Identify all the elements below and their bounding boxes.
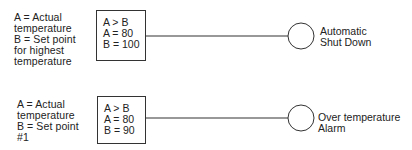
legend-2: A = Actual temperature B = Set point #1 bbox=[17, 99, 79, 143]
output-line: Alarm bbox=[318, 123, 400, 134]
output-label-2: Over temperature Alarm bbox=[318, 112, 400, 134]
output-line: Shut Down bbox=[320, 37, 371, 48]
condition-line: B = 100 bbox=[103, 39, 145, 50]
condition-box-2: A > B A = 80 B = 90 bbox=[97, 96, 146, 144]
output-circle-2 bbox=[288, 105, 314, 131]
output-label-1: Automatic Shut Down bbox=[320, 26, 371, 48]
condition-box-1: A > B A = 80 B = 100 bbox=[96, 10, 146, 61]
legend-line: temperature bbox=[14, 56, 76, 67]
condition-line: B = 90 bbox=[104, 125, 145, 136]
output-circle-1 bbox=[288, 23, 314, 49]
legend-1: A = Actual temperature B = Set point for… bbox=[14, 12, 76, 67]
legend-line: #1 bbox=[17, 132, 79, 143]
